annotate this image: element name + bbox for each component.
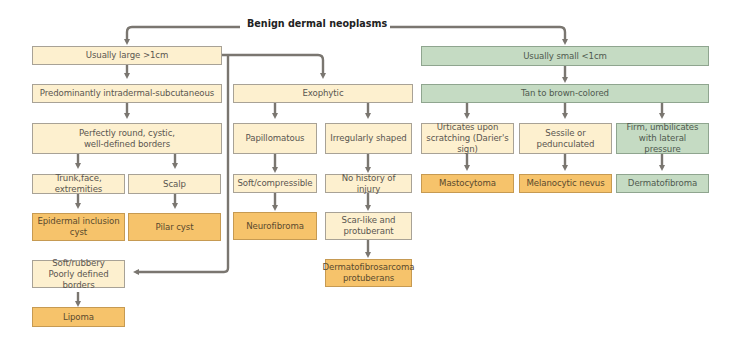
node-round-cystic: Perfectly round, cystic, well-defined bo… <box>32 123 222 154</box>
node-lipoma: Lipoma <box>32 307 125 327</box>
node-intradermal-subcutaneous: Predominantly intradermal-subcutaneous <box>32 84 222 103</box>
node-irregularly-shaped: Irregularly shaped <box>325 123 412 154</box>
node-melanocytic-nevus: Melanocytic nevus <box>519 174 612 193</box>
node-exophytic: Exophytic <box>233 84 413 103</box>
diagram-title: Benign dermal neoplasms <box>244 18 390 29</box>
node-sessile-pedunculated: Sessile or pedunculated <box>519 123 612 154</box>
node-papillomatous: Papillomatous <box>233 123 317 154</box>
node-firm-umbilicates: Firm, umbilicates with lateral pressure <box>616 123 709 154</box>
node-dermatofibroma: Dermatofibroma <box>616 174 709 193</box>
node-trunk-face-extremities: Trunk,face, extremities <box>32 174 125 194</box>
node-pilar-cyst: Pilar cyst <box>128 213 221 241</box>
node-usually-small: Usually small <1cm <box>421 46 709 66</box>
node-neurofibroma: Neurofibroma <box>233 212 317 240</box>
flowchart: Benign dermal neoplasms Usually large >1… <box>0 0 739 338</box>
node-urticates-darier-sign: Urticates upon scratching (Darier's sign… <box>421 123 514 154</box>
node-soft-compressible: Soft/compressible <box>233 174 317 193</box>
node-dermatofibrosarcoma-protuberans: Dermatofibrosarcoma protuberans <box>325 259 412 287</box>
node-mastocytoma: Mastocytoma <box>421 174 514 193</box>
node-epidermal-inclusion-cyst: Epidermal inclusion cyst <box>32 213 125 241</box>
node-soft-rubbery: Soft/rubbery Poorly defined borders <box>32 260 125 288</box>
node-no-history-injury: No history of injury <box>325 174 412 193</box>
node-scalp: Scalp <box>128 174 221 194</box>
node-tan-brown: Tan to brown-colored <box>421 84 709 103</box>
node-scar-like-protuberant: Scar-like and protuberant <box>325 212 412 240</box>
node-usually-large: Usually large >1cm <box>32 46 222 65</box>
